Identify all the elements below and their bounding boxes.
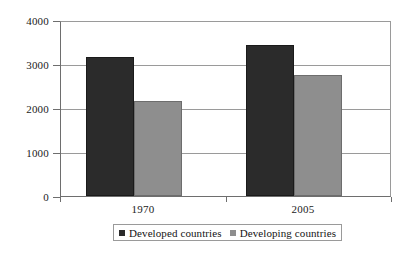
bar-group-1970 [86,22,196,196]
x-tick-mark-middle [226,197,227,202]
bar-group-2005 [246,22,356,196]
x-tick-label-2005: 2005 [248,203,358,215]
legend-label-developing: Developing countries [240,227,336,239]
y-tick-label-3000: 3000 [3,60,49,71]
bar-developing-1970 [134,101,182,196]
x-tick-mark-left [60,197,61,202]
legend-entry-developing: Developing countries [230,227,336,239]
legend-entry-developed: Developed countries [119,227,222,239]
bar-developed-1970 [86,57,134,196]
gray-square-swatch-icon [230,230,236,236]
y-tick-label-0: 0 [3,192,49,203]
y-tick-mark-3000 [53,65,60,66]
y-axis: 4000 3000 2000 1000 0 [0,0,60,220]
x-tick-label-1970: 1970 [88,203,198,215]
x-tick-mark-right [391,197,392,202]
bar-chart: 4000 3000 2000 1000 0 1970 2005 [0,0,415,257]
y-tick-label-4000: 4000 [3,16,49,27]
legend: Developed countries Developing countries [113,224,342,241]
y-tick-mark-0 [53,197,60,198]
legend-label-developed: Developed countries [129,227,222,239]
y-tick-mark-2000 [53,109,60,110]
y-tick-mark-4000 [53,21,60,22]
y-tick-label-1000: 1000 [3,148,49,159]
y-tick-mark-1000 [53,153,60,154]
y-tick-label-2000: 2000 [3,104,49,115]
dark-square-swatch-icon [119,230,125,236]
bar-developed-2005 [246,45,294,196]
bar-developing-2005 [294,75,342,196]
plot-area [60,21,391,197]
